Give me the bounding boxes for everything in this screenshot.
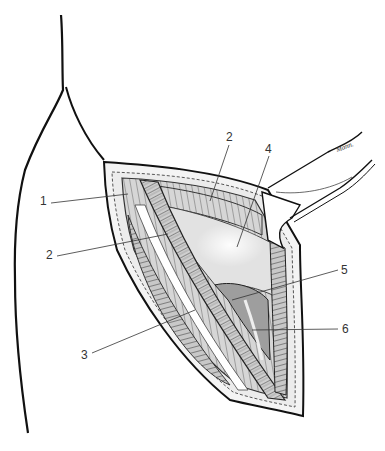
label-4: 4 xyxy=(265,143,272,155)
body-outline xyxy=(15,15,104,433)
label-6: 6 xyxy=(342,323,349,335)
label-2-upper: 2 xyxy=(226,131,233,143)
retractor: Mann. xyxy=(262,132,375,248)
label-2-lower: 2 xyxy=(46,249,53,261)
label-3: 3 xyxy=(81,349,88,361)
label-5: 5 xyxy=(341,264,348,276)
anatomical-illustration: Mann. xyxy=(0,0,385,451)
artist-signature: Mann. xyxy=(334,140,355,154)
label-1: 1 xyxy=(40,195,47,207)
